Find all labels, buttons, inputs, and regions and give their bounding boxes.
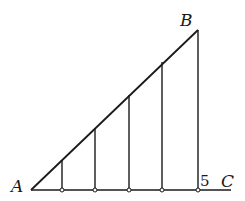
foot-point-3 [127,188,131,192]
label-five: 5 [200,172,210,190]
hypotenuse-ab [31,30,198,190]
label-c: C [221,171,234,191]
label-a: A [9,176,23,196]
triangle-diagram: A B C 5 [0,0,245,201]
foot-point-4 [160,188,164,192]
foot-point-1 [60,188,64,192]
label-b: B [179,10,193,30]
foot-point-2 [93,188,97,192]
